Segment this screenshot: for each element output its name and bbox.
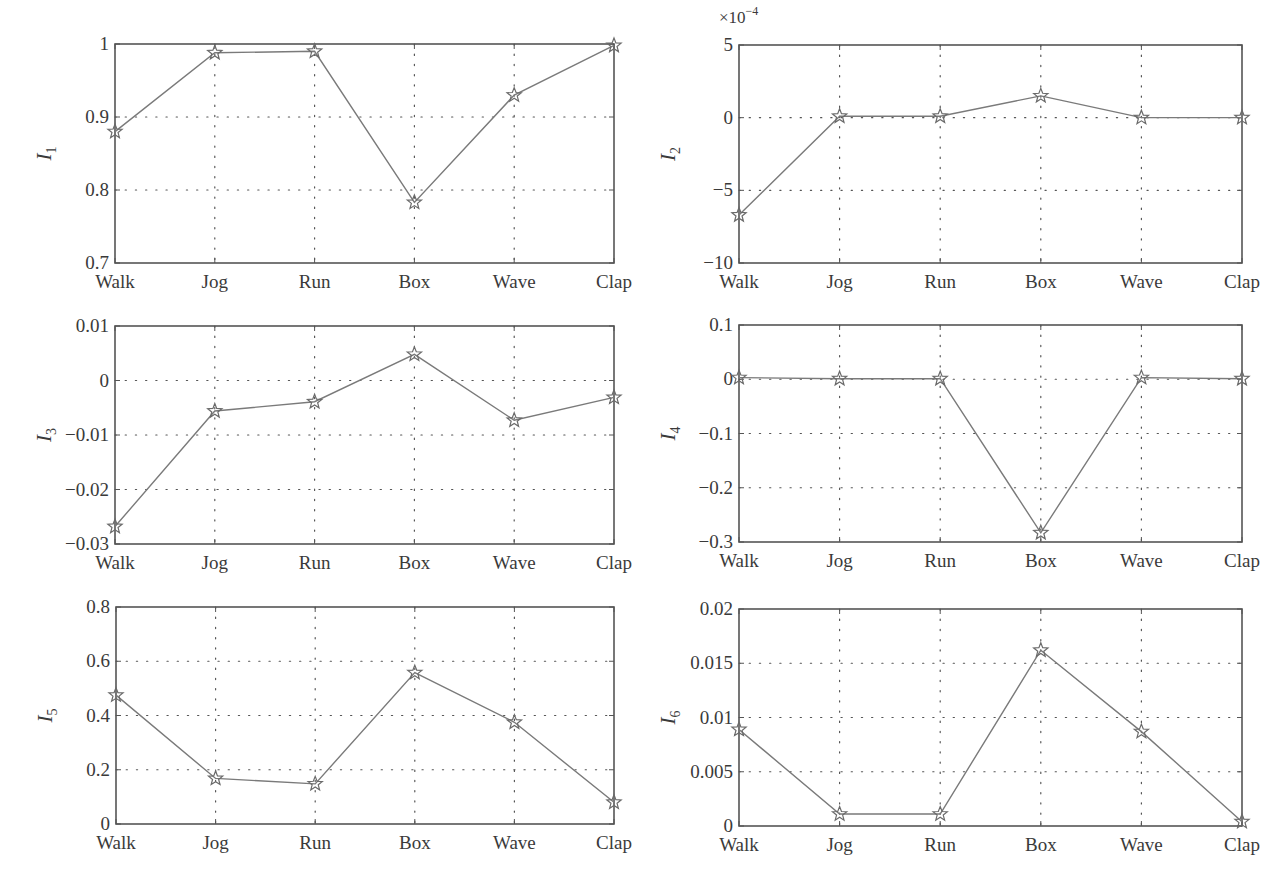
axes-box	[115, 44, 614, 263]
y-tick-label: 0.015	[690, 652, 733, 673]
y-tick-label: 0.8	[86, 596, 110, 617]
x-tick-label: Clap	[596, 832, 632, 853]
data-line	[115, 45, 614, 202]
x-tick-label: Walk	[719, 550, 759, 571]
chart-panel-i3: −0.03−0.02−0.0100.01WalkJogRunBoxWaveCla…	[32, 315, 632, 573]
data-line	[739, 96, 1242, 215]
chart-panel-i6: 00.0050.010.0150.02WalkJogRunBoxWaveClap…	[656, 598, 1260, 855]
x-tick-label: Jog	[826, 834, 853, 855]
chart-panel-i4: −0.3−0.2−0.100.1WalkJogRunBoxWaveClapI4	[656, 314, 1260, 571]
y-tick-label: 0.005	[690, 761, 733, 782]
x-tick-label: Jog	[202, 832, 229, 853]
grid-lines	[115, 44, 614, 263]
x-tick-label: Wave	[493, 271, 536, 292]
grid-lines	[115, 326, 614, 544]
x-tick-label: Run	[924, 271, 956, 292]
y-tick-label: −0.01	[65, 424, 109, 445]
y-tick-label: 0.7	[85, 252, 109, 273]
y-tick-label: 0.4	[86, 705, 110, 726]
x-tick-label: Walk	[96, 832, 136, 853]
y-tick-label: 0.8	[85, 179, 109, 200]
x-tick-label: Run	[924, 834, 956, 855]
x-tick-label: Jog	[202, 552, 229, 573]
x-tick-label: Run	[924, 550, 956, 571]
y-axis-label: I3	[32, 428, 59, 443]
x-tick-label: Walk	[95, 552, 135, 573]
grid-lines	[739, 325, 1242, 542]
x-tick-label: Box	[399, 271, 431, 292]
x-tick-label: Wave	[1120, 550, 1163, 571]
y-tick-label: 0	[724, 368, 734, 389]
y-axis-label: I1	[32, 147, 59, 162]
x-tick-label: Jog	[826, 271, 853, 292]
y-tick-label: −0.02	[65, 479, 109, 500]
star-marker	[933, 371, 947, 385]
y-tick-label: −5	[713, 179, 733, 200]
exponent-label: ×10−4	[719, 4, 758, 27]
y-tick-label: 0.2	[86, 759, 110, 780]
x-tick-label: Run	[299, 271, 331, 292]
star-marker	[933, 109, 947, 123]
y-axis-label: I5	[33, 709, 60, 724]
chart-panel-i5: 00.20.40.60.8WalkJogRunBoxWaveClapI5	[33, 596, 632, 853]
x-tick-label: Wave	[493, 832, 536, 853]
y-axis-label: I6	[656, 711, 683, 726]
y-tick-label: 0	[724, 815, 734, 836]
chart-panel-i1: 0.70.80.91WalkJogRunBoxWaveClapI1	[32, 33, 632, 292]
y-tick-label: 0.02	[700, 598, 733, 619]
x-tick-label: Box	[1025, 834, 1057, 855]
x-tick-label: Walk	[95, 271, 135, 292]
figure-grid: 0.70.80.91WalkJogRunBoxWaveClapI1−10−505…	[0, 0, 1275, 869]
y-tick-label: 0.01	[700, 707, 733, 728]
chart-canvas: 0.70.80.91WalkJogRunBoxWaveClapI1−10−505…	[0, 0, 1275, 869]
y-tick-label: 0	[100, 370, 110, 391]
x-tick-label: Box	[1025, 271, 1057, 292]
x-tick-label: Wave	[493, 552, 536, 573]
y-tick-label: 5	[724, 34, 734, 55]
x-tick-label: Box	[399, 552, 431, 573]
x-tick-label: Run	[299, 832, 331, 853]
star-marker	[208, 404, 222, 418]
y-tick-label: 0.1	[709, 314, 733, 335]
y-tick-label: 0.6	[86, 650, 110, 671]
x-tick-label: Wave	[1120, 271, 1163, 292]
grid-lines	[739, 45, 1242, 263]
axes-box	[739, 325, 1242, 542]
y-tick-label: −0.03	[65, 533, 109, 554]
data-line	[116, 673, 614, 803]
x-tick-label: Clap	[1224, 834, 1260, 855]
grid-lines	[116, 607, 614, 824]
axes-box	[116, 607, 614, 824]
data-line	[115, 354, 614, 526]
y-tick-label: −0.3	[699, 531, 733, 552]
x-tick-label: Clap	[596, 552, 632, 573]
x-tick-label: Clap	[1224, 550, 1260, 571]
x-tick-label: Clap	[596, 271, 632, 292]
data-line	[739, 650, 1242, 821]
x-tick-label: Walk	[719, 834, 759, 855]
x-tick-label: Box	[399, 832, 431, 853]
x-tick-label: Jog	[826, 550, 853, 571]
x-tick-label: Run	[299, 552, 331, 573]
y-tick-label: −0.2	[699, 477, 733, 498]
y-axis-label: I2	[656, 147, 683, 162]
y-tick-label: 0	[724, 107, 734, 128]
x-tick-label: Walk	[719, 271, 759, 292]
axes-box	[115, 326, 614, 544]
x-tick-label: Box	[1025, 550, 1057, 571]
data-line	[739, 378, 1242, 533]
x-tick-label: Wave	[1120, 834, 1163, 855]
y-tick-label: −10	[703, 252, 733, 273]
x-tick-label: Clap	[1224, 271, 1260, 292]
y-tick-label: 0.01	[76, 315, 109, 336]
y-tick-label: 0	[101, 813, 111, 834]
star-marker	[1034, 88, 1048, 102]
y-tick-label: 1	[100, 33, 110, 54]
x-tick-label: Jog	[202, 271, 229, 292]
star-marker	[832, 371, 846, 385]
axes-box	[739, 45, 1242, 263]
y-axis-label: I4	[656, 427, 683, 442]
y-tick-label: 0.9	[85, 106, 109, 127]
y-tick-label: −0.1	[699, 423, 733, 444]
chart-panel-i2: −10−505WalkJogRunBoxWaveClap×10−4I2	[656, 4, 1260, 292]
